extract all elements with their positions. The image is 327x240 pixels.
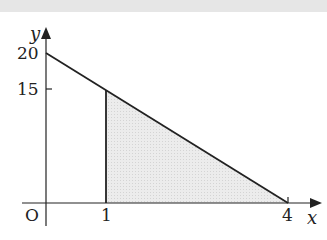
x-tick-label-4: 4 bbox=[282, 205, 293, 225]
y-tick-label-15: 15 bbox=[17, 79, 39, 99]
x-axis-label: x bbox=[307, 207, 317, 228]
y-tick-label-20: 20 bbox=[17, 43, 39, 63]
y-axis-arrow-icon bbox=[41, 27, 51, 39]
x-tick-label-1: 1 bbox=[101, 205, 112, 225]
origin-label: O bbox=[25, 205, 39, 225]
y-axis-label: y bbox=[29, 23, 41, 44]
graph-canvas: y 20 15 O 1 4 x bbox=[0, 0, 327, 240]
